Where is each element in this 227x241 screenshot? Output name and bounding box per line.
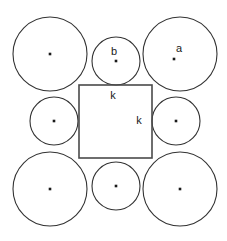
small-circle-middle-right-center-dot [175, 120, 178, 123]
large-circle-bottom-left [13, 152, 87, 226]
label-radius-a: a [176, 42, 183, 54]
large-circle-bottom-right [143, 152, 217, 226]
label-side-k-right: k [136, 114, 142, 126]
large-circle-top-left [13, 17, 87, 91]
small-circle-bottom-middle [92, 162, 140, 210]
geometry-figure: b a [0, 0, 227, 241]
large-circle-top-left-center-dot [49, 53, 52, 56]
large-circle-top-right-outline [143, 17, 217, 91]
small-circle-top-middle-center-dot [115, 60, 118, 63]
small-circle-bottom-middle-center-dot [115, 185, 118, 188]
large-circle-bottom-right-center-dot [179, 188, 182, 191]
large-circle-top-right-center-dot [173, 58, 176, 61]
central-square: k k [79, 85, 152, 158]
label-side-k-top: k [110, 89, 116, 101]
small-circle-middle-left [30, 97, 78, 145]
small-circle-top-middle: b [92, 37, 140, 85]
label-radius-b: b [111, 45, 117, 57]
small-circle-middle-left-center-dot [53, 120, 56, 123]
small-circle-middle-right [152, 97, 200, 145]
large-circle-top-right: a [143, 17, 217, 91]
figure-canvas: b a [0, 0, 227, 241]
large-circle-bottom-left-center-dot [49, 188, 52, 191]
